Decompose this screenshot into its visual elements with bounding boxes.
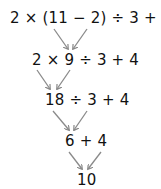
arrow-icon <box>57 70 70 89</box>
arrow-icon <box>88 152 101 169</box>
arrow-icon <box>37 70 50 89</box>
arrow-icon <box>73 29 87 49</box>
arrow-icon <box>53 111 69 130</box>
arrow-icon <box>69 152 82 169</box>
arrows-layer <box>0 0 161 189</box>
arrow-icon <box>74 111 87 130</box>
arrow-icon <box>54 29 68 49</box>
